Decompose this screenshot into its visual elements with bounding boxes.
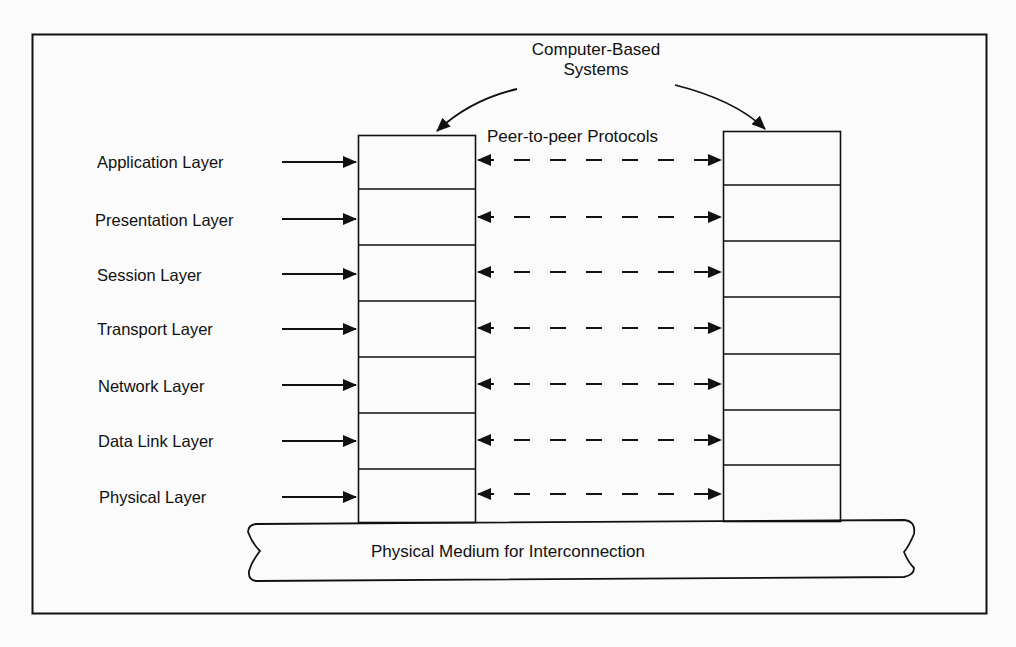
layer-label-session: Session Layer — [97, 267, 202, 284]
right-system-stack — [723, 132, 841, 522]
peer-protocols-label: Peer-to-peer Protocols — [487, 128, 658, 145]
layer-label-presentation: Presentation Layer — [95, 212, 234, 229]
layer-label-transport: Transport Layer — [97, 321, 213, 338]
left-system-stack — [358, 136, 476, 523]
layer-label-application: Application Layer — [97, 154, 224, 171]
osi-diagram: Computer-Based Systems Peer-to-peer Prot… — [0, 0, 1016, 647]
computer-based-systems-label: Computer-Based Systems — [516, 40, 676, 80]
physical-medium-label: Physical Medium for Interconnection — [371, 543, 645, 560]
layer-label-data-link: Data Link Layer — [98, 433, 214, 450]
peer-protocol-arrows — [478, 160, 721, 494]
curved-arrow-left-icon — [437, 89, 517, 131]
layer-label-physical: Physical Layer — [99, 489, 206, 506]
curved-arrow-right-icon — [675, 85, 765, 129]
title-line-1: Computer-Based — [516, 40, 676, 60]
layer-label-network: Network Layer — [98, 378, 204, 395]
layer-input-arrows — [282, 162, 356, 497]
title-line-2: Systems — [516, 60, 676, 80]
